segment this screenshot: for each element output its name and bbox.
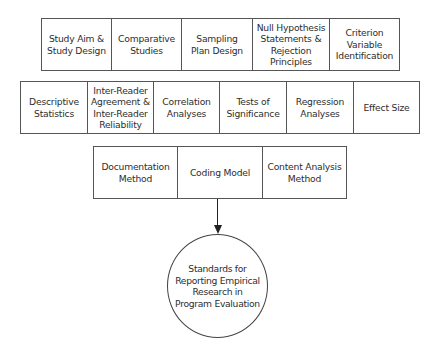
standards-circle: Standards for Reporting Empirical Resear… xyxy=(167,234,268,338)
box-tests-of-significance: Tests of Significance xyxy=(220,82,287,133)
box-correlation-analyses: Correlation Analyses xyxy=(154,82,220,133)
box-sampling-plan-design: Sampling Plan Design xyxy=(182,19,253,70)
box-regression-analyses: Regression Analyses xyxy=(287,82,354,133)
middle-row-boxes: Descriptive Statistics Inter-Reader Agre… xyxy=(20,81,420,134)
arrow-down-icon xyxy=(214,225,222,234)
box-coding-model: Coding Model xyxy=(178,147,263,198)
standards-label: Standards for Reporting Empirical Resear… xyxy=(175,263,260,309)
box-criterion-variable: Criterion Variable Identification xyxy=(330,19,399,70)
box-inter-reader-agreement: Inter-Reader Agreement & Inter-Reader Re… xyxy=(88,82,154,133)
top-row-boxes: Study Aim & Study Design Comparative Stu… xyxy=(41,18,400,71)
box-effect-size: Effect Size xyxy=(354,82,419,133)
box-null-hypothesis: Null Hypothesis Statements & Rejection P… xyxy=(253,19,330,70)
box-comparative-studies: Comparative Studies xyxy=(112,19,182,70)
bottom-row-boxes: Documentation Method Coding Model Conten… xyxy=(93,146,347,199)
box-study-aim-design: Study Aim & Study Design xyxy=(42,19,112,70)
box-descriptive-statistics: Descriptive Statistics xyxy=(21,82,88,133)
box-content-analysis-method: Content Analysis Method xyxy=(263,147,346,198)
arrow-shaft xyxy=(217,199,218,226)
box-documentation-method: Documentation Method xyxy=(94,147,178,198)
